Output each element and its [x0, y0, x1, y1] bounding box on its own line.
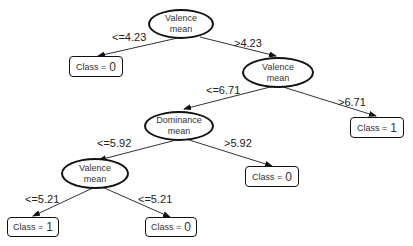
node-label-line1: Valence — [165, 13, 197, 24]
edge-label-root-left: <=4.23 — [112, 31, 146, 43]
node-valence-mean-2: Valence mean — [242, 57, 314, 88]
leaf-prefix: Class = — [151, 222, 181, 232]
edge-label-n4-left: <=5.21 — [25, 193, 59, 205]
edge-label-n2-right: >6.71 — [338, 96, 366, 108]
node-label-line1: Valence — [262, 62, 294, 73]
leaf-value: 1 — [390, 121, 397, 135]
leaf-class-0-c: Class =0 — [145, 217, 197, 237]
leaf-value: 0 — [184, 220, 191, 234]
leaf-value: 1 — [46, 220, 53, 234]
node-label-line1: Dominance — [156, 115, 202, 126]
edge-label-n3-left: <=5.92 — [97, 137, 131, 149]
leaf-prefix: Class = — [13, 222, 43, 232]
node-label-line2: mean — [168, 126, 191, 137]
leaf-value: 0 — [285, 170, 292, 184]
leaf-prefix: Class = — [76, 62, 106, 72]
leaf-class-1-b: Class =1 — [7, 217, 59, 237]
edge-label-n4-right: <=5.21 — [138, 193, 172, 205]
node-label-line2: mean — [267, 73, 290, 84]
node-label-line2: mean — [170, 24, 193, 35]
edge-label-n2-left: <=6.71 — [206, 84, 240, 96]
node-label-line2: mean — [84, 174, 107, 185]
node-dominance-mean: Dominance mean — [144, 111, 214, 141]
root-node-valence-mean: Valence mean — [148, 9, 214, 39]
node-label-line1: Valence — [79, 163, 111, 174]
leaf-class-1-a: Class =1 — [350, 117, 404, 138]
node-valence-mean-4: Valence mean — [61, 158, 129, 189]
leaf-class-0-a: Class =0 — [69, 56, 123, 77]
leaf-value: 0 — [109, 60, 116, 74]
leaf-class-0-b: Class =0 — [245, 166, 299, 187]
edge-label-n3-right: >5.92 — [224, 137, 252, 149]
leaf-prefix: Class = — [357, 123, 387, 133]
leaf-prefix: Class = — [252, 172, 282, 182]
edge-label-root-right: >4.23 — [234, 37, 262, 49]
